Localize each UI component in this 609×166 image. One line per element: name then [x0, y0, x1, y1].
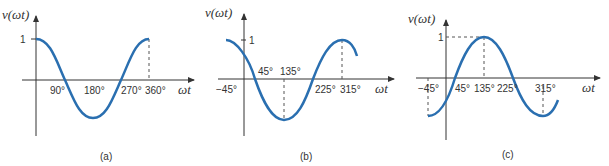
x-tick-45: 45°	[258, 66, 273, 77]
y-tick-label: 1	[249, 35, 255, 46]
x-tick-minus45: −45°	[216, 84, 237, 95]
x-axis-label: ωt	[375, 81, 388, 96]
cosine-curve	[428, 37, 558, 116]
y-tick-label: 1	[20, 34, 26, 45]
panel-c: v(ωt) 1 −45° 45° 135° 225° 315° ωt (c)	[408, 11, 600, 160]
panel-b: v(ωt) 1 −45° 45° 135° 225° 315° ωt (b)	[205, 5, 394, 162]
caption-b: (b)	[300, 151, 312, 162]
x-axis-label: ωt	[582, 80, 595, 95]
y-tick-label: 1	[438, 32, 444, 43]
x-tick-225: 225°	[497, 83, 518, 94]
x-tick-135: 135°	[280, 66, 301, 77]
y-axis-label: v(ωt)	[2, 7, 29, 22]
y-axis-label: v(ωt)	[408, 11, 435, 26]
cosine-curve	[226, 40, 357, 120]
caption-c: (c)	[502, 149, 514, 160]
x-tick-315: 315°	[535, 83, 556, 94]
x-tick-270: 270°	[121, 85, 142, 96]
x-tick-minus45: −45°	[418, 83, 439, 94]
y-axis-label: v(ωt)	[205, 5, 232, 20]
x-tick-180: 180°	[84, 85, 105, 96]
x-tick-45: 45°	[455, 83, 470, 94]
x-tick-225: 225°	[315, 84, 336, 95]
cosine-curve	[36, 39, 149, 118]
x-tick-135: 135°	[474, 83, 495, 94]
x-tick-360: 360°	[145, 85, 166, 96]
x-axis-label: ωt	[178, 82, 191, 97]
x-tick-315: 315°	[340, 84, 361, 95]
caption-a: (a)	[100, 151, 112, 162]
three-phase-diagrams: v(ωt) 1 90° 180° 270° 360° ωt (a) v(ωt) …	[0, 0, 609, 166]
panel-a: v(ωt) 1 90° 180° 270° 360° ωt (a)	[2, 7, 194, 162]
x-tick-90: 90°	[50, 85, 65, 96]
